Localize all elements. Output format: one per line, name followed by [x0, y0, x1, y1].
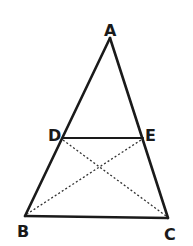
segment-AB [25, 38, 110, 216]
segment-BC [25, 216, 168, 218]
label-E: E [145, 126, 156, 145]
segment-AC [110, 38, 168, 218]
label-B: B [17, 222, 29, 241]
segment-DC-dashed [63, 140, 166, 216]
label-C: C [164, 225, 176, 244]
label-D: D [48, 126, 61, 145]
label-A: A [104, 21, 117, 40]
triangle-diagram: A D E B C [0, 0, 193, 246]
